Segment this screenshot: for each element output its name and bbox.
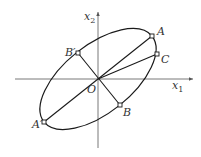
point-B-prime-marker [76,51,80,55]
x1-axis-label: x1 [172,79,183,94]
oc-line [98,54,157,79]
point-B-marker [118,103,122,107]
origin-label: O [87,83,96,96]
point-B-prime-label: B′ [64,46,76,59]
x2-axis-label: x2 [84,10,95,25]
ellipse-diagram: x2 x1 O A A′ B B′ C [0,0,201,157]
point-A-prime-label: A′ [31,118,43,131]
point-A-prime-marker [42,120,46,124]
point-C-marker [155,52,159,56]
point-B-label: B [122,106,131,119]
point-A-label: A [156,25,165,38]
point-A-marker [150,34,154,38]
point-C-label: C [161,53,170,66]
